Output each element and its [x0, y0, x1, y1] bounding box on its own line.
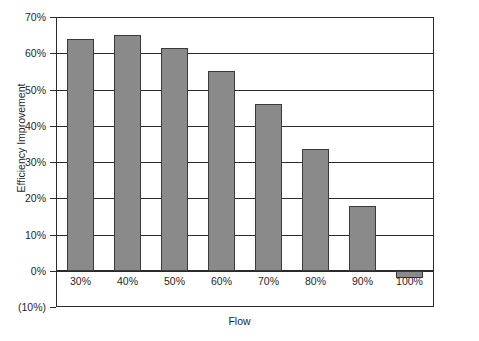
- y-axis-tick: [50, 126, 56, 127]
- y-axis-tick: [50, 53, 56, 54]
- bar: [255, 104, 281, 271]
- bar: [208, 71, 234, 271]
- y-axis-tick-label: 0%: [0, 266, 46, 276]
- y-axis-tick: [50, 235, 56, 236]
- y-axis-tick-label: (10%): [0, 302, 46, 312]
- y-axis-tick: [50, 162, 56, 163]
- x-axis-tick-label: 100%: [387, 275, 433, 287]
- x-axis-tick-label: 30%: [58, 275, 104, 287]
- bar: [114, 35, 140, 271]
- y-axis-tick: [50, 271, 56, 272]
- y-axis-title-wrap: Efficiency Improvement: [15, 43, 31, 233]
- x-axis-tick-label: 80%: [293, 275, 339, 287]
- x-axis-tick-label: 60%: [199, 275, 245, 287]
- y-axis-tick: [50, 307, 56, 308]
- y-axis-tick: [50, 90, 56, 91]
- bars-group: [57, 17, 433, 272]
- x-axis-tick-label: 70%: [246, 275, 292, 287]
- y-axis-tick: [50, 198, 56, 199]
- y-axis-tick: [50, 17, 56, 18]
- bar: [161, 48, 187, 271]
- x-axis-title: Flow: [0, 315, 479, 327]
- x-axis-tick-label: 40%: [105, 275, 151, 287]
- bar: [349, 206, 375, 271]
- x-axis-tick-label: 50%: [152, 275, 198, 287]
- bar-chart: 70%60%50%40%30%20%10%0%(10%) Efficiency …: [0, 0, 479, 341]
- bar: [302, 149, 328, 271]
- x-axis-tick-label: 90%: [340, 275, 386, 287]
- y-axis-title: Efficiency Improvement: [15, 84, 27, 193]
- bar: [67, 39, 93, 271]
- y-axis-tick-label: 70%: [0, 12, 46, 22]
